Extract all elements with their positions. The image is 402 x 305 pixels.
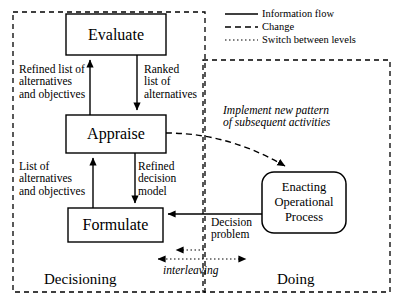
box-enacting-label-line2: Operational <box>274 195 333 210</box>
box-enacting-label-line3: Process <box>285 210 323 225</box>
edge-label-refined-list-line3: and objectives <box>19 88 85 100</box>
box-evaluate: Evaluate <box>66 14 166 55</box>
edge-label-decision-problem-line1: Decision <box>211 216 252 228</box>
edge-label-decision-problem: Decision problem <box>211 216 252 241</box>
edge-label-decision-problem-line2: problem <box>211 228 252 240</box>
edge-label-refined-list-line1: Refined list of <box>19 63 85 75</box>
box-appraise: Appraise <box>66 115 166 153</box>
edge-implement-pattern-arrow <box>166 133 285 166</box>
legend-label-information-flow: Information flow <box>262 8 334 19</box>
diagram-vector-layer <box>0 0 402 305</box>
edge-label-list-of-alternatives-line3: and objectives <box>19 185 85 197</box>
legend-label-change: Change <box>262 21 294 32</box>
box-appraise-label: Appraise <box>87 125 145 143</box>
edge-label-implement-pattern: Implement new pattern of subsequent acti… <box>223 104 330 129</box>
legend-label-switch-between-levels: Switch between levels <box>262 34 356 45</box>
edge-label-refined-decision-model: Refined decision model <box>138 160 176 197</box>
edge-label-implement-pattern-line1: Implement new pattern <box>223 104 330 116</box>
edge-label-interleaving: interleaving <box>163 264 219 276</box>
edge-label-implement-pattern-line2: of subsequent activities <box>223 116 330 128</box>
edge-label-list-of-alternatives: List of alternatives and objectives <box>19 160 85 197</box>
edge-label-ranked-list-line2: list of <box>144 75 197 87</box>
edge-label-ranked-list-line1: Ranked <box>144 63 197 75</box>
box-formulate-label: Formulate <box>83 216 149 234</box>
box-formulate: Formulate <box>68 208 163 242</box>
edge-label-ranked-list: Ranked list of alternatives <box>144 63 197 100</box>
edge-label-refined-decision-model-line1: Refined <box>138 160 176 172</box>
box-enacting: Enacting Operational Process <box>262 172 346 233</box>
edge-label-list-of-alternatives-line2: alternatives <box>19 172 85 184</box>
box-enacting-label-line1: Enacting <box>282 180 326 195</box>
region-label-doing: Doing <box>277 271 315 288</box>
edge-label-refined-list-line2: alternatives <box>19 75 85 87</box>
process-diagram: Evaluate Appraise Formulate Enacting Ope… <box>0 0 402 305</box>
box-evaluate-label: Evaluate <box>88 26 144 44</box>
edge-label-ranked-list-line3: alternatives <box>144 88 197 100</box>
edge-label-refined-list: Refined list of alternatives and objecti… <box>19 63 85 100</box>
region-label-decisioning: Decisioning <box>44 271 117 288</box>
edge-label-interleaving-line1: interleaving <box>163 264 219 276</box>
edge-label-list-of-alternatives-line1: List of <box>19 160 85 172</box>
edge-label-refined-decision-model-line3: model <box>138 185 176 197</box>
edge-label-refined-decision-model-line2: decision <box>138 172 176 184</box>
